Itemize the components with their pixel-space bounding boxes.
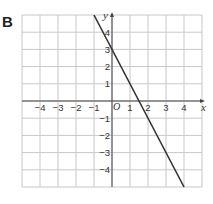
y-tick-label: −1 <box>99 113 110 124</box>
y-tick-label: −4 <box>99 164 110 175</box>
y-tick-label: −3 <box>99 147 110 158</box>
x-tick-label: −4 <box>35 102 46 113</box>
y-tick-label: 1 <box>105 78 110 89</box>
y-tick-label: 2 <box>105 61 110 72</box>
origin-label: O <box>113 101 120 112</box>
x-tick-label: 3 <box>163 102 168 113</box>
x-tick-label: 1 <box>127 102 132 113</box>
x-tick-label: −2 <box>71 102 82 113</box>
x-tick-label: −3 <box>53 102 64 113</box>
x-tick-label: 2 <box>145 102 150 113</box>
x-tick-label: −1 <box>89 102 100 113</box>
line-graph: −4−3−2−11234−4−3−2−11234Oxy <box>0 0 213 204</box>
x-tick-label: 4 <box>181 102 186 113</box>
y-axis-label: y <box>102 9 108 21</box>
y-tick-label: −2 <box>99 130 110 141</box>
x-axis-label: x <box>200 101 206 113</box>
